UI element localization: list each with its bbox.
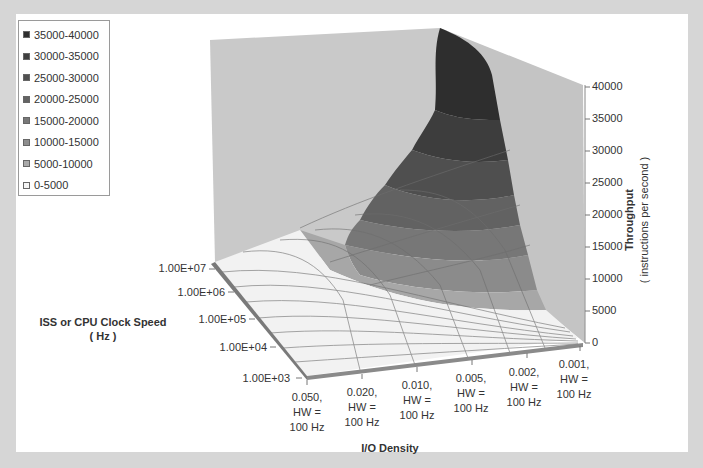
x-tick-label: 0.010, HW = 100 Hz [392, 378, 442, 423]
x-tick-label: 0.005, HW = 100 Hz [446, 371, 496, 416]
legend-item: 10000-15000 [23, 132, 109, 154]
x-tick-line: 100 Hz [392, 408, 442, 423]
z-tick-label: 20000 [592, 208, 623, 220]
x-tick-line: 0.020, [337, 385, 387, 400]
legend-swatch [23, 96, 30, 103]
legend-swatch [23, 117, 30, 124]
legend-label: 10000-15000 [34, 136, 99, 148]
z-tick-label: 10000 [592, 272, 623, 284]
x-tick-line: 0.001, [549, 357, 599, 372]
y-axis-title: ISS or CPU Clock Speed ( Hz ) [28, 315, 178, 343]
z-tick-label: 30000 [592, 144, 623, 156]
x-tick-line: HW = [499, 380, 549, 395]
x-tick-line: 100 Hz [549, 387, 599, 402]
legend-swatch [23, 182, 30, 189]
legend-swatch [23, 74, 30, 81]
z-axis-title-line1: Throughput [622, 130, 637, 310]
x-tick-line: 100 Hz [282, 420, 332, 435]
legend-label: 15000-20000 [34, 115, 99, 127]
legend-item: 5000-10000 [23, 153, 109, 175]
x-tick-line: HW = [282, 405, 332, 420]
y-tick-label: 1.00E+03 [200, 372, 290, 384]
legend-label: 0-5000 [34, 179, 68, 191]
x-tick-line: HW = [549, 372, 599, 387]
x-tick-line: 100 Hz [446, 401, 496, 416]
x-tick-label: 0.050, HW = 100 Hz [282, 390, 332, 435]
legend-item: 30000-35000 [23, 46, 109, 68]
legend-label: 20000-25000 [34, 93, 99, 105]
z-tick-label: 40000 [592, 80, 623, 92]
z-tick-label: 35000 [592, 112, 623, 124]
legend-label: 25000-30000 [34, 72, 99, 84]
x-axis-title: I/O Density [330, 442, 450, 454]
z-axis-title-line2: ( instructions per second ) [637, 130, 652, 310]
legend: 35000-40000 30000-35000 25000-30000 2000… [18, 20, 110, 196]
legend-label: 35000-40000 [34, 29, 99, 41]
x-tick-label: 0.020, HW = 100 Hz [337, 385, 387, 430]
legend-swatch [23, 160, 30, 167]
legend-swatch [23, 53, 30, 60]
legend-item: 25000-30000 [23, 67, 109, 89]
x-tick-line: HW = [337, 400, 387, 415]
x-tick-line: HW = [446, 386, 496, 401]
legend-item: 0-5000 [23, 175, 109, 197]
z-tick-label: 0 [592, 336, 598, 348]
legend-label: 30000-35000 [34, 50, 99, 62]
x-tick-line: 0.002, [499, 365, 549, 380]
legend-item: 35000-40000 [23, 24, 109, 46]
legend-swatch [23, 139, 30, 146]
legend-swatch [23, 31, 30, 38]
y-axis-title-line1: ISS or CPU Clock Speed [28, 315, 178, 329]
z-tick-label: 25000 [592, 176, 623, 188]
x-tick-line: HW = [392, 393, 442, 408]
x-tick-line: 100 Hz [499, 395, 549, 410]
x-tick-line: 0.050, [282, 390, 332, 405]
y-tick-label: 1.00E+06 [135, 286, 225, 298]
y-tick-label: 1.00E+04 [177, 341, 267, 353]
legend-item: 20000-25000 [23, 89, 109, 111]
x-tick-line: 100 Hz [337, 415, 387, 430]
legend-label: 5000-10000 [34, 158, 93, 170]
z-axis-title: Throughput ( instructions per second ) [622, 130, 652, 310]
legend-item: 15000-20000 [23, 110, 109, 132]
x-tick-line: 0.005, [446, 371, 496, 386]
z-axis-ticks [585, 87, 590, 343]
x-tick-line: 0.010, [392, 378, 442, 393]
y-tick-label: 1.00E+07 [116, 262, 206, 274]
x-tick-label: 0.002, HW = 100 Hz [499, 365, 549, 410]
y-axis-title-line2: ( Hz ) [28, 329, 178, 343]
z-tick-label: 15000 [592, 240, 623, 252]
x-tick-label: 0.001, HW = 100 Hz [549, 357, 599, 402]
z-tick-label: 5000 [592, 304, 616, 316]
